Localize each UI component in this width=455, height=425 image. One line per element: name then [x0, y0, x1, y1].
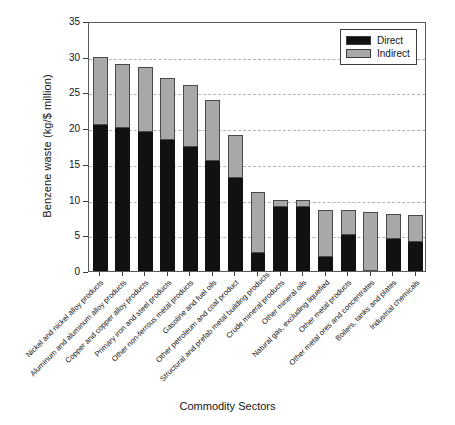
bar-segment-direct: [160, 140, 175, 271]
bar-segment-direct: [318, 257, 333, 271]
x-tick-mark: [415, 272, 416, 276]
bar-segment-indirect: [386, 214, 401, 239]
bar-segment-indirect: [341, 210, 356, 235]
bar-segment-indirect: [93, 57, 108, 125]
legend: Direct Indirect: [340, 29, 417, 65]
x-tick-mark: [280, 272, 281, 276]
legend-swatch-indirect: [346, 49, 371, 58]
y-tick-label: 25: [50, 87, 80, 98]
bar-segment-indirect: [183, 85, 198, 146]
bar-segment-direct: [296, 207, 311, 271]
y-tick-label: 5: [50, 230, 80, 241]
x-tick-mark: [234, 272, 235, 276]
x-tick-mark: [144, 272, 145, 276]
bar-4: [183, 85, 198, 271]
bar-segment-indirect: [408, 215, 423, 243]
x-tick-mark: [302, 272, 303, 276]
x-tick-mark: [122, 272, 123, 276]
bar-8: [273, 200, 288, 271]
bar-segment-direct: [228, 178, 243, 271]
legend-item-indirect: Indirect: [346, 47, 410, 60]
bar-segment-direct: [138, 132, 153, 271]
bar-5: [205, 100, 220, 271]
bar-12: [363, 212, 378, 271]
x-tick-mark: [189, 272, 190, 276]
bar-segment-indirect: [160, 78, 175, 139]
bar-7: [251, 192, 266, 271]
bar-segment-direct: [273, 207, 288, 271]
bar-segment-direct: [205, 161, 220, 271]
bar-segment-direct: [115, 128, 130, 271]
legend-label-indirect: Indirect: [377, 48, 410, 59]
x-tick-mark: [392, 272, 393, 276]
x-tick-mark: [99, 272, 100, 276]
bar-segment-indirect: [273, 200, 288, 207]
x-tick-mark: [325, 272, 326, 276]
bar-segment-direct: [341, 235, 356, 271]
x-tick-mark: [370, 272, 371, 276]
x-tick-mark: [167, 272, 168, 276]
bar-segment-indirect: [251, 192, 266, 253]
bar-segment-indirect: [318, 210, 333, 256]
bar-10: [318, 210, 333, 271]
legend-swatch-direct: [346, 36, 371, 45]
y-tick-label: 20: [50, 123, 80, 134]
bar-6: [228, 135, 243, 271]
x-tick-mark: [347, 272, 348, 276]
bar-segment-indirect: [296, 200, 311, 207]
y-tick-mark: [83, 272, 88, 273]
chart-figure: Benzene waste (kg/$ million) 05101520253…: [0, 0, 455, 425]
bar-14: [408, 215, 423, 271]
bar-3: [160, 78, 175, 271]
y-axis-title: Benzene waste (kg/$ million): [41, 36, 53, 256]
bar-2: [138, 67, 153, 271]
bar-13: [386, 214, 401, 271]
bar-segment-direct: [183, 147, 198, 271]
bar-segment-direct: [386, 239, 401, 271]
y-tick-label: 35: [50, 16, 80, 27]
bar-0: [93, 57, 108, 271]
bar-segment-indirect: [205, 100, 220, 161]
bar-segment-direct: [251, 253, 266, 271]
bar-11: [341, 210, 356, 271]
y-tick-label: 15: [50, 159, 80, 170]
bar-segment-direct: [408, 242, 423, 271]
bar-segment-indirect: [138, 67, 153, 131]
y-tick-label: 10: [50, 195, 80, 206]
bar-segment-indirect: [115, 64, 130, 128]
bar-segment-indirect: [228, 135, 243, 178]
bar-1: [115, 64, 130, 271]
bar-9: [296, 200, 311, 271]
legend-item-direct: Direct: [346, 34, 410, 47]
legend-label-direct: Direct: [377, 35, 403, 46]
y-tick-label: 30: [50, 52, 80, 63]
y-tick-label: 0: [50, 266, 80, 277]
x-tick-mark: [212, 272, 213, 276]
x-axis-title: Commodity Sectors: [0, 400, 455, 412]
bar-segment-indirect: [363, 212, 378, 271]
bar-segment-direct: [93, 125, 108, 271]
